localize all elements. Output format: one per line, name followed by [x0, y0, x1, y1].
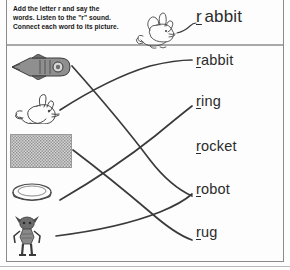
- picture-robot: [10, 214, 44, 260]
- word-robot[interactable]: robot: [196, 181, 230, 198]
- connector-rocket: [72, 66, 192, 196]
- worksheet-page: Add the letter r and say the words. List…: [0, 0, 290, 270]
- word-rug[interactable]: rug: [196, 224, 218, 241]
- word-rocket[interactable]: rocket: [196, 138, 237, 155]
- word-rug-rest: ug: [201, 224, 218, 240]
- word-ring-rest: ing: [201, 93, 221, 109]
- picture-ring: [10, 180, 54, 208]
- word-ring[interactable]: ring: [196, 93, 221, 110]
- word-rabbit[interactable]: rabbit: [196, 52, 233, 69]
- picture-rabbit: [10, 94, 66, 128]
- connector-rabbit: [60, 60, 192, 110]
- connector-rug: [73, 150, 192, 240]
- rug-icon: [10, 134, 72, 168]
- word-robot-rest: obot: [201, 181, 230, 197]
- ring-icon: [10, 180, 54, 204]
- rabbit-icon: [10, 94, 66, 124]
- word-rocket-rest: ocket: [201, 138, 237, 154]
- robot-icon: [10, 214, 44, 256]
- rocket-icon: [10, 54, 72, 80]
- picture-rug: [10, 134, 72, 172]
- picture-rocket: [10, 54, 72, 84]
- word-rabbit-rest: abbit: [201, 52, 233, 68]
- connector-ring: [60, 106, 192, 200]
